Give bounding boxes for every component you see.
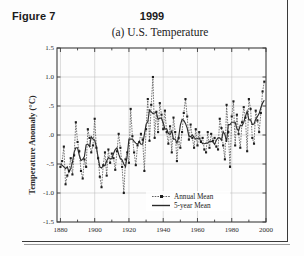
y-tick-label: .0 [49, 131, 55, 139]
y-tick-label: 1.0 [45, 73, 54, 81]
x-tick-label: 1920 [122, 226, 137, 234]
x-tick-label: 2000 [259, 226, 274, 234]
y-tick-label: -1.0 [43, 189, 55, 197]
figure-page: Figure 7 1999 (a) U.S. Temperature Tempe… [0, 0, 304, 256]
y-tick-label: .5 [49, 102, 55, 110]
x-tick-label: 1960 [190, 226, 205, 234]
x-tick-label: 1940 [156, 226, 171, 234]
x-tick-label: 1880 [53, 226, 68, 234]
plot-area: 1.51.0.5.0-.5-1.0-1.5 188019001920194019… [0, 0, 304, 256]
y-tick-labels: 1.51.0.5.0-.5-1.0-1.5 [43, 44, 55, 226]
series-5-year-mean [60, 100, 264, 172]
temperature-anomaly-chart: 1.51.0.5.0-.5-1.0-1.5 188019001920194019… [0, 0, 304, 256]
x-tick-label: 1900 [88, 226, 103, 234]
y-tick-label: 1.5 [45, 44, 54, 52]
y-tick-label: -.5 [46, 160, 54, 168]
chart-legend: Annual Mean5-year Mean [146, 191, 230, 211]
x-tick-label: 1980 [225, 226, 240, 234]
legend-label-annual-mean: Annual Mean [174, 193, 214, 201]
x-tick-labels: 1880190019201940196019802000 [53, 226, 273, 234]
legend-label-5-year-mean: 5-year Mean [174, 202, 211, 210]
